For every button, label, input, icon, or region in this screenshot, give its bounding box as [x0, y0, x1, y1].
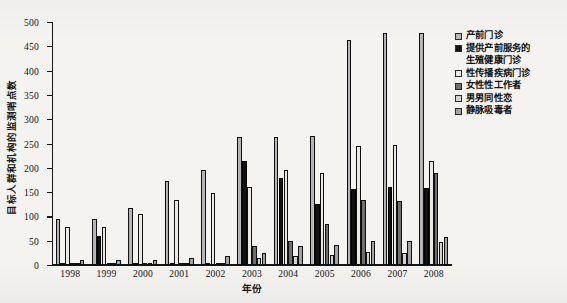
x-axis-tick-label: 2004: [278, 268, 298, 279]
bar: [153, 260, 158, 265]
legend-item[interactable]: 性传播疾病门诊: [455, 68, 567, 80]
legend-item[interactable]: 男男同性恋: [455, 93, 567, 105]
y-axis-tick-label: 250: [24, 138, 39, 149]
legend-swatch-icon: [455, 95, 462, 102]
y-axis-tick-label: 500: [24, 17, 39, 28]
bar-cluster: [274, 22, 303, 265]
x-axis-tick-label: 2001: [169, 268, 189, 279]
plot-area: 050100150200250300350400450500: [52, 22, 452, 265]
y-axis-title: 目标人群和机构的监测哨点数: [4, 32, 18, 262]
y-axis-tick-label: 300: [24, 114, 39, 125]
bar: [65, 227, 70, 265]
legend-label: 提供产前服务的: [466, 43, 530, 55]
bar: [361, 200, 366, 265]
bar: [179, 263, 184, 265]
y-axis-tick-label: 200: [24, 162, 39, 173]
bar: [56, 219, 61, 265]
bar-cluster: [128, 22, 157, 265]
legend: 产前门诊提供产前服务的生殖健康门诊性传播疾病门诊女性性工作者男男同性恋静脉吸毒者: [455, 30, 567, 118]
legend-swatch-icon: [455, 83, 462, 90]
y-axis-tick-label: 150: [24, 187, 39, 198]
y-axis-tick: 0: [47, 265, 52, 266]
legend-item[interactable]: 静脉吸毒者: [455, 105, 567, 117]
bar: [434, 173, 439, 265]
bar: [444, 237, 449, 265]
bar: [225, 256, 230, 265]
x-axis-tick-label: 1998: [60, 268, 80, 279]
legend-item[interactable]: 提供产前服务的: [455, 43, 567, 55]
x-axis-tick-labels: 1998199920002001200220032004200520062007…: [52, 268, 452, 282]
y-axis-tick-label: 0: [34, 260, 39, 271]
x-axis-tick-label: 2000: [133, 268, 153, 279]
bar: [189, 258, 194, 265]
y-axis-tick-label: 100: [24, 211, 39, 222]
bar: [138, 214, 143, 265]
bar-cluster: [419, 22, 448, 265]
bar: [397, 201, 402, 265]
x-axis-tick-label: 2003: [242, 268, 262, 279]
x-axis-tick-label: 2006: [351, 268, 371, 279]
x-axis-tick-label: 2002: [206, 268, 226, 279]
bar: [107, 263, 112, 265]
legend-label: 产前门诊: [466, 30, 503, 42]
legend-item-continuation: 生殖健康门诊: [455, 55, 567, 67]
legend-swatch-icon: [455, 108, 462, 115]
bars-layer: [52, 22, 452, 265]
bar: [334, 245, 339, 265]
bar: [143, 263, 148, 265]
bar: [371, 241, 376, 265]
bar-cluster: [165, 22, 194, 265]
legend-swatch-icon: [455, 33, 462, 40]
bar: [102, 227, 107, 265]
bar-cluster: [310, 22, 339, 265]
bar: [174, 200, 179, 265]
bar-cluster: [237, 22, 266, 265]
bar: [262, 253, 267, 265]
bar-cluster: [201, 22, 230, 265]
legend-swatch-spacer: [455, 58, 462, 65]
y-axis-tick-label: 400: [24, 65, 39, 76]
legend-swatch-icon: [455, 70, 462, 77]
legend-label-continuation: 生殖健康门诊: [466, 55, 521, 67]
x-axis-title: 年份: [52, 281, 452, 295]
bar: [80, 260, 85, 265]
x-axis-tick-label: 1999: [97, 268, 117, 279]
x-axis-tick-label: 2005: [315, 268, 335, 279]
bar: [70, 263, 75, 265]
legend-item[interactable]: 女性性工作者: [455, 80, 567, 92]
bar: [407, 241, 412, 265]
bar: [288, 241, 293, 265]
bar-cluster: [56, 22, 85, 265]
bar-cluster: [347, 22, 376, 265]
bar: [325, 224, 330, 265]
bar: [128, 208, 133, 265]
y-axis-tick-label: 450: [24, 41, 39, 52]
bar: [216, 263, 221, 265]
bar: [165, 181, 170, 265]
bar: [252, 246, 257, 265]
bar: [201, 170, 206, 265]
bar-chart: 目标人群和机构的监测哨点数 05010015020025030035040045…: [0, 0, 567, 303]
legend-swatch-icon: [455, 45, 462, 52]
legend-label: 静脉吸毒者: [466, 105, 512, 117]
bar: [116, 260, 121, 265]
y-axis-tick-label: 350: [24, 89, 39, 100]
bar-cluster: [92, 22, 121, 265]
legend-label: 性传播疾病门诊: [466, 68, 530, 80]
bar: [298, 246, 303, 265]
legend-item[interactable]: 产前门诊: [455, 30, 567, 42]
legend-label: 女性性工作者: [466, 80, 521, 92]
y-axis-tick-label: 50: [29, 235, 39, 246]
x-axis-tick-label: 2008: [424, 268, 444, 279]
x-axis-tick-label: 2007: [387, 268, 407, 279]
bar: [211, 193, 216, 265]
bar-cluster: [383, 22, 412, 265]
legend-label: 男男同性恋: [466, 93, 512, 105]
